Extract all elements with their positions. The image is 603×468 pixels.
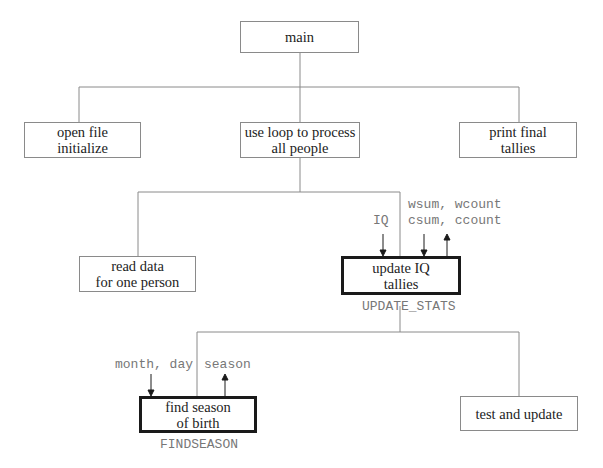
module-name-findseason: FINDSEASON: [160, 437, 238, 452]
node-print-final: print final tallies: [459, 122, 577, 158]
param-csum-ccount: csum, ccount: [408, 213, 502, 228]
node-main: main: [240, 21, 359, 53]
param-season: season: [204, 357, 251, 372]
param-wsum-wcount: wsum, wcount: [408, 197, 502, 212]
node-read-data: read data for one person: [79, 256, 196, 292]
node-find-season: find season of birth: [139, 396, 257, 433]
node-loop: use loop to process all people: [240, 122, 360, 158]
structure-chart: main open file initialize use loop to pr…: [0, 0, 603, 468]
param-month-day: month, day: [115, 357, 193, 372]
node-test-update: test and update: [460, 396, 578, 431]
node-update-iq: update IQ tallies: [341, 256, 461, 295]
node-open-file: open file initialize: [24, 122, 141, 158]
param-iq: IQ: [373, 213, 389, 228]
module-name-update-stats: UPDATE_STATS: [362, 299, 456, 314]
